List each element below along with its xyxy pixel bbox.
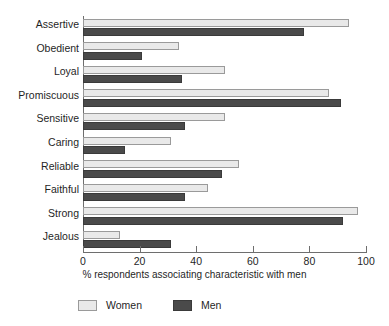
x-tick-mark bbox=[309, 246, 310, 252]
bar-men bbox=[83, 170, 222, 178]
chart-legend: WomenMen bbox=[78, 299, 221, 311]
bar-chart: AssertiveObedientLoyalPromiscuousSensiti… bbox=[0, 0, 389, 326]
category-label: Obedient bbox=[0, 43, 79, 54]
category-label: Reliable bbox=[0, 161, 79, 172]
bar-men bbox=[83, 122, 185, 130]
x-tick-label: 40 bbox=[190, 255, 202, 267]
category-axis-labels: AssertiveObedientLoyalPromiscuousSensiti… bbox=[0, 16, 79, 252]
bar-women bbox=[83, 231, 120, 239]
bar-women bbox=[83, 19, 349, 27]
bar-men bbox=[83, 52, 142, 60]
category-label: Strong bbox=[0, 208, 79, 219]
bar-men bbox=[83, 99, 341, 107]
bar-women bbox=[83, 42, 179, 50]
x-tick-label: 80 bbox=[304, 255, 316, 267]
bar-group bbox=[83, 228, 366, 252]
legend-item: Men bbox=[173, 299, 221, 311]
bar-men bbox=[83, 217, 343, 225]
bar-women bbox=[83, 137, 171, 145]
bar-men bbox=[83, 193, 185, 201]
category-label: Caring bbox=[0, 137, 79, 148]
x-tick-mark bbox=[140, 246, 141, 252]
x-tick-mark bbox=[366, 246, 367, 252]
category-label: Loyal bbox=[0, 66, 79, 77]
legend-label: Men bbox=[201, 299, 221, 311]
x-tick-label: 60 bbox=[247, 255, 259, 267]
x-axis-line bbox=[83, 252, 367, 253]
bar-men bbox=[83, 28, 304, 36]
category-label: Assertive bbox=[0, 19, 79, 30]
x-tick-label: 20 bbox=[134, 255, 146, 267]
category-label: Faithful bbox=[0, 184, 79, 195]
x-tick-label: 0 bbox=[80, 255, 86, 267]
bar-men bbox=[83, 240, 171, 248]
x-axis-title: % respondents associating characteristic… bbox=[0, 269, 389, 281]
bar-rows bbox=[83, 16, 366, 252]
x-tick-mark bbox=[196, 246, 197, 252]
bar-women bbox=[83, 184, 208, 192]
bar-women bbox=[83, 89, 329, 97]
bar-group bbox=[83, 181, 366, 205]
bar-group bbox=[83, 158, 366, 182]
bar-group bbox=[83, 134, 366, 158]
bar-group bbox=[83, 110, 366, 134]
bar-men bbox=[83, 146, 125, 154]
bar-women bbox=[83, 113, 225, 121]
x-tick-label: 100 bbox=[357, 255, 375, 267]
bar-group bbox=[83, 205, 366, 229]
bar-group bbox=[83, 40, 366, 64]
x-tick-mark bbox=[253, 246, 254, 252]
bar-women bbox=[83, 160, 239, 168]
bar-men bbox=[83, 75, 182, 83]
bar-group bbox=[83, 87, 366, 111]
category-label: Jealous bbox=[0, 231, 79, 242]
category-label: Promiscuous bbox=[0, 90, 79, 101]
men-swatch bbox=[173, 300, 192, 311]
plot-area bbox=[83, 16, 366, 252]
bar-women bbox=[83, 207, 358, 215]
category-label: Sensitive bbox=[0, 113, 79, 124]
x-tick-mark bbox=[83, 246, 84, 252]
bar-group bbox=[83, 16, 366, 40]
women-swatch bbox=[78, 300, 97, 311]
legend-label: Women bbox=[106, 299, 142, 311]
bar-group bbox=[83, 63, 366, 87]
legend-item: Women bbox=[78, 299, 142, 311]
bar-women bbox=[83, 66, 225, 74]
